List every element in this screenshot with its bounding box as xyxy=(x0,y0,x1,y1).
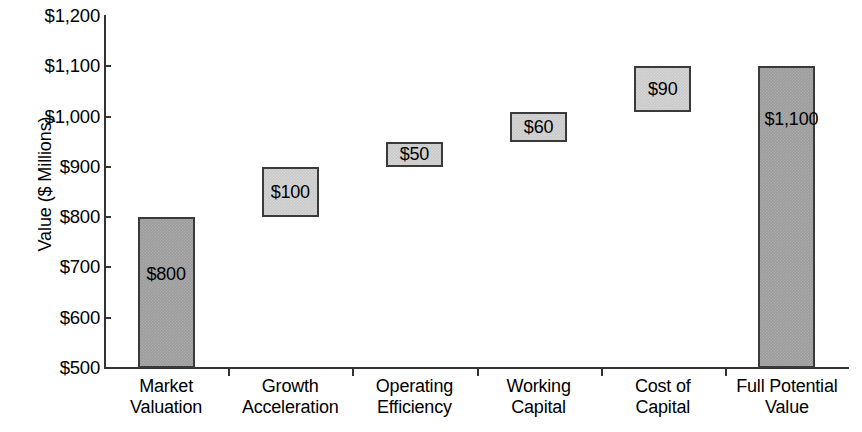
y-axis-tick-mark xyxy=(104,65,111,67)
x-axis-category-label-line: Market xyxy=(104,376,228,397)
x-axis-category-label-line: Working xyxy=(477,376,601,397)
x-axis-category-label-line: Operating xyxy=(352,376,476,397)
x-axis-category-label: MarketValuation xyxy=(104,376,228,418)
x-axis-category-label-line: Capital xyxy=(601,397,725,418)
x-axis-category-label-line: Full Potential xyxy=(725,376,849,397)
y-axis-tick-mark xyxy=(104,266,111,268)
x-axis-category-label-line: Acceleration xyxy=(228,397,352,418)
x-axis-category-labels: MarketValuationGrowthAccelerationOperati… xyxy=(0,0,862,432)
y-axis-tick-mark xyxy=(104,116,111,118)
x-axis-category-label: OperatingEfficiency xyxy=(352,376,476,418)
x-axis-category-label-line: Capital xyxy=(477,397,601,418)
x-axis-category-label-line: Valuation xyxy=(104,397,228,418)
x-axis-category-label: WorkingCapital xyxy=(477,376,601,418)
x-axis-category-label: Full PotentialValue xyxy=(725,376,849,418)
y-axis-tick-mark xyxy=(104,317,111,319)
x-axis-category-label-line: Value xyxy=(725,397,849,418)
x-axis-category-label: Cost ofCapital xyxy=(601,376,725,418)
y-axis-tick-mark xyxy=(104,166,111,168)
waterfall-chart: Value ($ Millions) $1,200$1,100$1,000$90… xyxy=(0,0,862,432)
x-axis-category-label: GrowthAcceleration xyxy=(228,376,352,418)
x-axis-category-label-line: Growth xyxy=(228,376,352,397)
x-axis-category-label-line: Efficiency xyxy=(352,397,476,418)
x-axis-category-label-line: Cost of xyxy=(601,376,725,397)
y-axis-tick-mark xyxy=(104,216,111,218)
